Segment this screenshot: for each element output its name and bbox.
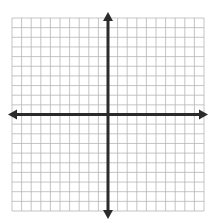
coordinate-grid-figure: ry bbox=[0, 0, 215, 224]
coordinate-plane-svg bbox=[0, 0, 215, 224]
